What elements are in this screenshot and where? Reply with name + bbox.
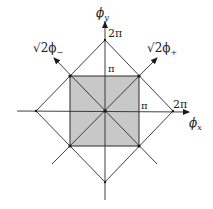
- y-tick-2pi: 2π: [108, 27, 122, 40]
- x-tick-pi: π: [141, 100, 148, 111]
- x-axis-label: ϕx: [189, 116, 202, 132]
- x-tick-2pi: 2π: [173, 98, 187, 111]
- y-axis-label: ϕy: [96, 6, 109, 22]
- x-axis: [17, 111, 189, 112]
- phase-diagram: ϕy 2π π √2ϕ− √2ϕ+ π 2π ϕx: [0, 0, 213, 209]
- y-tick-pi: π: [108, 63, 115, 74]
- phi-plus-label: √2ϕ+: [147, 41, 177, 57]
- phi-minus-label: √2ϕ−: [33, 41, 63, 57]
